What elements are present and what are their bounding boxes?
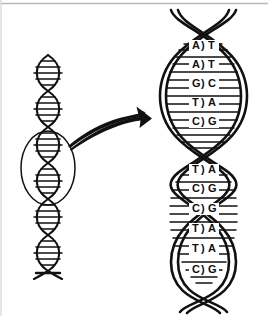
base-right: C: [208, 77, 216, 89]
base-left: T: [192, 163, 199, 175]
pair-separator: ): [201, 202, 205, 214]
base-left: A: [192, 58, 200, 70]
pair-separator: ): [201, 242, 205, 254]
base-right: A: [208, 96, 216, 108]
base-left: G: [192, 77, 201, 89]
base-left: C: [192, 202, 200, 214]
pair-separator: ): [201, 96, 205, 108]
pair-separator: ): [201, 58, 205, 70]
base-right: T: [208, 58, 215, 70]
base-right: G: [208, 263, 217, 275]
pair-separator: ): [201, 163, 205, 175]
base-left: T: [192, 222, 199, 234]
base-right: A: [208, 222, 216, 234]
pair-separator: ): [201, 182, 205, 194]
base-pair: T ) A: [189, 163, 219, 176]
base-pair: C ) G: [189, 202, 219, 215]
base-pair: T ) A: [189, 242, 219, 255]
base-pair: C ) G: [189, 115, 219, 128]
dna-figure: A ) T A ) T G ) C T ) A: [0, 0, 268, 316]
base-pair: T ) A: [189, 222, 219, 235]
base-right: A: [208, 163, 216, 175]
base-left: T: [192, 242, 199, 254]
pair-separator: ): [201, 39, 205, 51]
pair-separator: ): [201, 222, 205, 234]
base-left: C: [192, 182, 200, 194]
dna-diagram-canvas: A ) T A ) T G ) C T ) A: [0, 0, 268, 316]
base-pair: C ) G: [189, 263, 219, 276]
base-left: A: [192, 39, 200, 51]
base-pair: A ) T: [189, 58, 219, 71]
base-left: C: [192, 115, 200, 127]
base-right: G: [208, 115, 217, 127]
base-right: A: [208, 242, 216, 254]
base-pair: T ) A: [189, 96, 219, 109]
base-pair: G ) C: [189, 77, 219, 90]
pair-separator: ): [201, 263, 205, 275]
base-pair: C ) G: [189, 182, 219, 195]
base-right: G: [208, 202, 217, 214]
base-pair: A ) T: [189, 39, 219, 52]
base-right: G: [208, 182, 217, 194]
pair-separator: ): [201, 77, 205, 89]
base-right: T: [208, 39, 215, 51]
base-left: C: [192, 263, 200, 275]
pair-separator: ): [201, 115, 205, 127]
base-left: T: [192, 96, 199, 108]
